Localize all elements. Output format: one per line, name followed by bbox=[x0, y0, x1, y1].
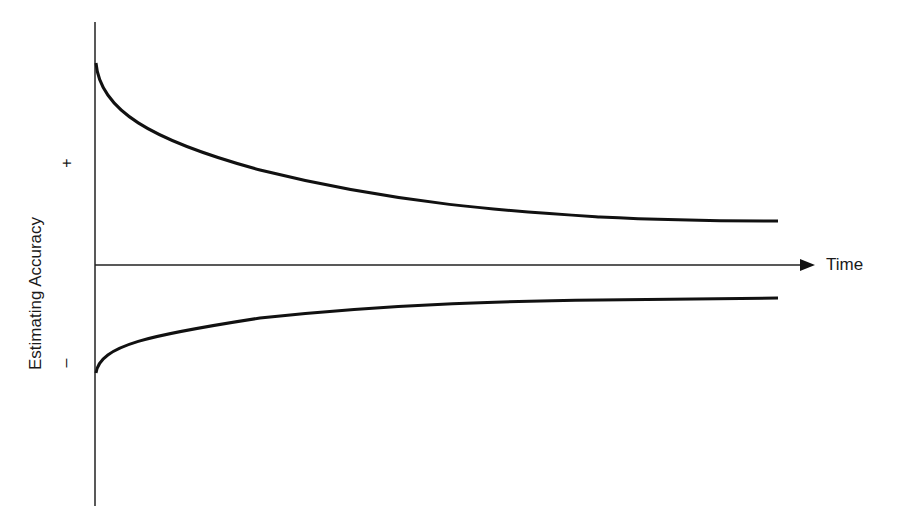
lower-curve bbox=[96, 298, 778, 373]
minus-marker: – bbox=[57, 359, 75, 368]
plus-marker: + bbox=[58, 158, 76, 167]
x-axis-arrow-icon bbox=[800, 259, 815, 271]
diagram-canvas bbox=[0, 0, 903, 529]
upper-curve bbox=[96, 63, 778, 221]
y-axis-label: Estimating Accuracy bbox=[26, 217, 46, 370]
x-axis-label: Time bbox=[826, 255, 863, 275]
